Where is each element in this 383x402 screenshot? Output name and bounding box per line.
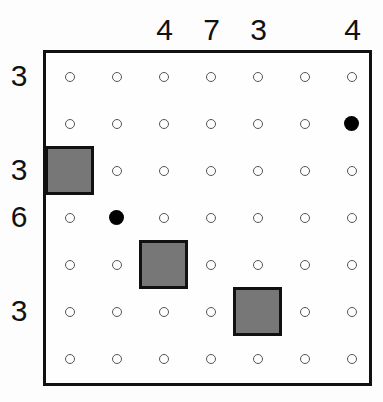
row-clue: 6 <box>4 202 34 232</box>
empty-circle-icon <box>65 213 75 223</box>
grid-cell[interactable] <box>187 194 234 241</box>
empty-circle-icon <box>112 72 122 82</box>
empty-circle-icon <box>347 72 357 82</box>
grid-cell[interactable] <box>46 241 93 288</box>
grid-cell[interactable] <box>46 288 93 335</box>
empty-circle-icon <box>112 354 122 364</box>
grid-cell[interactable] <box>187 53 234 100</box>
grid-cell[interactable] <box>234 194 281 241</box>
grid-cell[interactable] <box>234 53 281 100</box>
empty-circle-icon <box>159 166 169 176</box>
grid-cell[interactable] <box>328 194 375 241</box>
empty-circle-icon <box>253 260 263 270</box>
empty-circle-icon <box>347 213 357 223</box>
empty-circle-icon <box>253 166 263 176</box>
grid-cell[interactable] <box>234 100 281 147</box>
column-clue: 4 <box>150 15 180 45</box>
empty-circle-icon <box>300 307 310 317</box>
grid-cell[interactable] <box>187 335 234 382</box>
grid-cell[interactable] <box>234 335 281 382</box>
shaded-block[interactable] <box>45 146 94 195</box>
column-clue: 3 <box>244 15 274 45</box>
grid-cell[interactable] <box>187 288 234 335</box>
empty-circle-icon <box>65 72 75 82</box>
grid-cell[interactable] <box>46 53 93 100</box>
grid-cell[interactable] <box>93 53 140 100</box>
empty-circle-icon <box>300 213 310 223</box>
grid-cell[interactable] <box>140 194 187 241</box>
grid-cell[interactable] <box>46 100 93 147</box>
empty-circle-icon <box>300 354 310 364</box>
empty-circle-icon <box>159 213 169 223</box>
grid-cell[interactable] <box>328 53 375 100</box>
grid-cell[interactable] <box>93 147 140 194</box>
grid-cell[interactable] <box>328 100 375 147</box>
empty-circle-icon <box>206 72 216 82</box>
grid-cell[interactable] <box>234 241 281 288</box>
grid-cell[interactable] <box>93 241 140 288</box>
grid-cell[interactable] <box>281 194 328 241</box>
grid-cell[interactable] <box>140 147 187 194</box>
empty-circle-icon <box>112 307 122 317</box>
empty-circle-icon <box>112 260 122 270</box>
filled-dot-icon <box>109 210 124 225</box>
grid-cell[interactable] <box>140 288 187 335</box>
grid-cell[interactable] <box>281 241 328 288</box>
grid-cell[interactable] <box>187 100 234 147</box>
empty-circle-icon <box>206 119 216 129</box>
grid-cell[interactable] <box>328 288 375 335</box>
grid-cell[interactable] <box>140 100 187 147</box>
empty-circle-icon <box>159 119 169 129</box>
filled-dot-icon <box>344 116 359 131</box>
empty-circle-icon <box>206 260 216 270</box>
puzzle-board <box>43 50 372 386</box>
grid-cell[interactable] <box>46 194 93 241</box>
empty-circle-icon <box>253 213 263 223</box>
empty-circle-icon <box>253 119 263 129</box>
empty-circle-icon <box>159 307 169 317</box>
grid-cell[interactable] <box>93 335 140 382</box>
empty-circle-icon <box>206 354 216 364</box>
grid-cell[interactable] <box>328 241 375 288</box>
grid-cell[interactable] <box>281 53 328 100</box>
empty-circle-icon <box>65 119 75 129</box>
empty-circle-icon <box>300 72 310 82</box>
empty-circle-icon <box>347 166 357 176</box>
empty-circle-icon <box>300 260 310 270</box>
empty-circle-icon <box>112 166 122 176</box>
empty-circle-icon <box>65 260 75 270</box>
grid-cell[interactable] <box>187 147 234 194</box>
column-clue: 7 <box>197 15 227 45</box>
row-clue: 3 <box>4 61 34 91</box>
grid-cell[interactable] <box>140 335 187 382</box>
grid-cell[interactable] <box>281 100 328 147</box>
empty-circle-icon <box>300 166 310 176</box>
grid-cell[interactable] <box>93 288 140 335</box>
grid-cell[interactable] <box>93 100 140 147</box>
row-clue: 3 <box>4 296 34 326</box>
shaded-block[interactable] <box>233 287 282 336</box>
empty-circle-icon <box>300 119 310 129</box>
empty-circle-icon <box>206 166 216 176</box>
grid-cell[interactable] <box>281 147 328 194</box>
grid-cell[interactable] <box>234 147 281 194</box>
grid-cell[interactable] <box>46 335 93 382</box>
grid-cell[interactable] <box>93 194 140 241</box>
empty-circle-icon <box>206 307 216 317</box>
shaded-block[interactable] <box>139 240 188 289</box>
row-clue: 3 <box>4 155 34 185</box>
grid-cell[interactable] <box>281 335 328 382</box>
grid-cell[interactable] <box>281 288 328 335</box>
empty-circle-icon <box>65 307 75 317</box>
empty-circle-icon <box>159 354 169 364</box>
grid-cell[interactable] <box>328 335 375 382</box>
column-clue: 4 <box>338 15 368 45</box>
empty-circle-icon <box>253 72 263 82</box>
empty-circle-icon <box>159 72 169 82</box>
empty-circle-icon <box>65 354 75 364</box>
grid-cell[interactable] <box>140 53 187 100</box>
empty-circle-icon <box>347 307 357 317</box>
grid-cell[interactable] <box>328 147 375 194</box>
empty-circle-icon <box>347 260 357 270</box>
grid-cell[interactable] <box>187 241 234 288</box>
